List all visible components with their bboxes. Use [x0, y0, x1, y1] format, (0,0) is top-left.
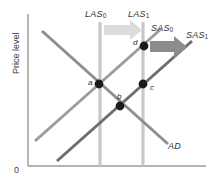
sas0-text: SAS: [151, 23, 170, 33]
point-c-dot: [139, 80, 148, 89]
origin-label: 0: [14, 166, 19, 175]
las0-text: LAS: [85, 9, 103, 19]
y-axis-label: Price level: [12, 32, 21, 74]
ad-as-diagram: Price level 0 LAS0 LAS1 SAS0 SAS1 AD a b…: [0, 0, 212, 178]
point-label-d: d: [133, 39, 137, 47]
point-b-dot: [116, 102, 125, 111]
las-shift-arrow: [104, 20, 142, 40]
curve-label-las0: LAS0: [85, 10, 106, 20]
point-label-a: a: [88, 79, 92, 87]
sas0-sub: 0: [170, 26, 174, 33]
sas1-sub: 1: [205, 33, 209, 40]
curve-label-las1: LAS1: [128, 10, 149, 20]
sas1-text: SAS: [186, 30, 205, 40]
las1-sub: 1: [146, 12, 150, 19]
curve-label-sas1: SAS1: [186, 31, 208, 41]
point-label-b: b: [117, 93, 121, 101]
point-d-dot: [140, 42, 149, 51]
point-a-dot: [95, 80, 104, 89]
curve-label-ad: AD: [168, 142, 181, 151]
sas-shift-arrow: [150, 36, 187, 58]
las0-sub: 0: [103, 12, 107, 19]
curve-label-sas0: SAS0: [151, 24, 173, 34]
diagram-canvas: [0, 0, 212, 178]
point-label-c: c: [150, 84, 154, 92]
las1-text: LAS: [128, 9, 146, 19]
